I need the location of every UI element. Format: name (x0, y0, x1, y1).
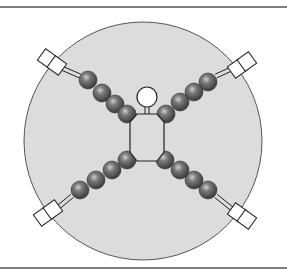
bead (171, 93, 189, 111)
diagram-canvas (0, 0, 287, 276)
bead (71, 181, 89, 199)
bead (79, 71, 97, 89)
bead (103, 161, 121, 179)
body-octagon (130, 114, 164, 161)
head-circle (137, 87, 157, 107)
bead (87, 171, 105, 189)
bead (171, 161, 189, 179)
